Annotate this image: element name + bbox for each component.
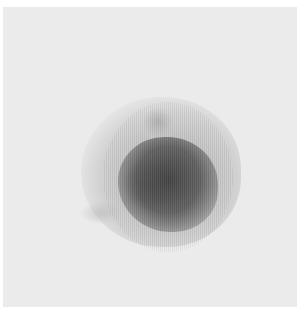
scan-image xyxy=(3,7,297,307)
scan-line-texture xyxy=(103,102,233,252)
